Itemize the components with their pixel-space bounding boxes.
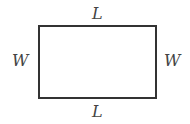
- label-top-length: L: [92, 6, 103, 22]
- label-bottom-length: L: [92, 104, 103, 120]
- rectangle: [38, 25, 157, 99]
- label-left-width: W: [12, 53, 28, 69]
- label-right-width: W: [164, 53, 180, 69]
